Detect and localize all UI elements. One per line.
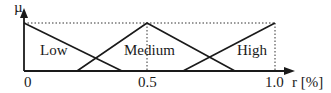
x-tick-0: 0 [24, 75, 32, 90]
x-tick-0-5: 0.5 [138, 75, 157, 90]
series-low [24, 23, 122, 71]
series-label-high: High [237, 43, 267, 58]
y-axis-label: µ [14, 0, 23, 15]
x-tick-1-0: 1.0 [265, 75, 284, 90]
series-label-low: Low [40, 43, 68, 58]
series-label-medium: Medium [124, 43, 175, 58]
x-axis-label: r [%] [292, 75, 323, 90]
